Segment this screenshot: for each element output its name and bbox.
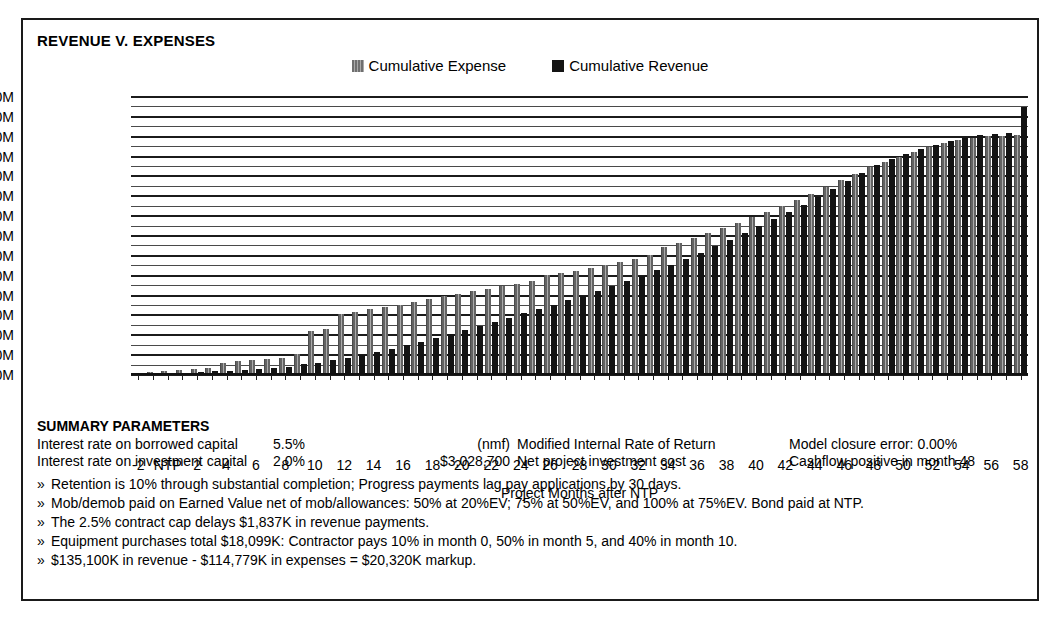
bar-cumulative-expense [764,212,770,375]
bar-group [396,305,411,375]
summary-note-text: Retention is 10% through substantial com… [51,475,1027,494]
bar-group [322,329,337,375]
bar-cumulative-revenue [683,259,689,375]
bar-cumulative-expense [441,296,447,375]
x-axis-tick [212,375,213,380]
x-axis-tick [330,375,331,380]
summary-note-text: $135,100K in revenue - $114,779K in expe… [51,551,1027,570]
y-axis-tick-label: $60.0M [0,248,14,264]
gridline-major [131,96,1028,98]
x-axis-tick [432,375,433,380]
bar-group [602,265,617,375]
bar-cumulative-revenue [1021,107,1027,375]
bar-cumulative-expense [867,167,873,375]
x-axis-tick [344,375,345,380]
bar-cumulative-expense [720,228,726,375]
summary-note-text: Mob/demob paid on Earned Value net of mo… [51,494,1027,513]
bar-cumulative-revenue [462,330,468,375]
summary-heading: SUMMARY PARAMETERS [37,418,1027,434]
bar-group [425,299,440,375]
bar-cumulative-expense [485,289,491,375]
bar-group [293,354,308,375]
summary-parameter-row: Interest rate on borrowed capital5.5%(nm… [37,436,1027,453]
x-axis-tick [712,375,713,380]
bar-cumulative-revenue [962,138,968,375]
bar-cumulative-expense [999,136,1005,375]
legend-label-expense: Cumulative Expense [369,58,507,73]
summary-note-row: »The 2.5% contract cap delays $1,837K in… [37,513,1027,532]
bar-group [734,223,749,375]
bar-cumulative-revenue [477,326,483,375]
bar-cumulative-expense [647,255,653,375]
x-axis-tick [918,375,919,380]
x-axis-tick [815,375,816,380]
x-axis-tick [682,375,683,380]
bar-group [352,312,367,375]
x-axis-tick [771,375,772,380]
summary-param-value: 5.5% [273,436,393,453]
bar-cumulative-revenue [433,338,439,375]
x-axis-tick [535,375,536,380]
bar-cumulative-expense [676,243,682,375]
bar-group [557,273,572,375]
bar-cumulative-revenue [845,181,851,375]
x-axis-tick [197,375,198,380]
bar-cumulative-expense [794,200,800,375]
x-axis-line [131,373,1028,375]
bar-group [499,286,514,375]
bar-cumulative-expense [544,275,550,375]
bar-cumulative-expense [338,314,344,375]
x-axis-tick [403,375,404,380]
screenshot-root: REVENUE V. EXPENSES Cumulative Expense C… [0,0,1059,620]
bar-group [954,138,969,375]
bar-group [543,275,558,375]
bar-cumulative-revenue [521,313,527,375]
bar-cumulative-expense [588,268,594,375]
bar-cumulative-revenue [771,219,777,375]
x-axis-tick [491,375,492,380]
bar-group [852,173,867,375]
bullet-icon: » [37,513,51,532]
x-axis-tick [756,375,757,380]
summary-param-label: Interest rate on investment capital [37,453,273,470]
legend-item-cumulative-expense: Cumulative Expense [352,58,507,73]
bar-cumulative-revenue [389,349,395,375]
y-axis-tick-label: $70.0M [0,228,14,244]
y-axis-tick-label: $110.0M [0,149,14,165]
y-axis-tick-label: $100.0M [0,168,14,184]
bar-cumulative-expense [558,273,564,375]
bar-cumulative-expense [455,294,461,375]
bar-cumulative-expense [911,152,917,375]
summary-param-value: 2.0% [273,453,393,470]
bar-cumulative-revenue [948,141,954,375]
summary-notes: »Retention is 10% through substantial co… [37,475,1027,570]
bar-cumulative-expense [661,247,667,375]
bar-cumulative-revenue [639,276,645,375]
summary-param-description: Net project investment cost [517,453,789,470]
bar-cumulative-expense [602,265,608,375]
y-axis-tick-label: $20.0M [0,327,14,343]
summary-param-label: Interest rate on borrowed capital [37,436,273,453]
summary-param-amount: $3,028,700 [393,453,517,470]
x-axis-tick [359,375,360,380]
bar-group [999,133,1014,375]
bar-group [484,289,499,375]
x-axis-tick [624,375,625,380]
page-title: REVENUE V. EXPENSES [37,32,215,49]
bar-cumulative-revenue [492,322,498,375]
y-axis-tick-label: $120.0M [0,129,14,145]
x-axis-tick [315,375,316,380]
bar-cumulative-expense [308,331,314,375]
x-axis-tick [565,375,566,380]
gridline-minor [131,146,1028,147]
bullet-icon: » [37,551,51,570]
bar-cumulative-revenue [565,300,571,375]
y-axis-tick-label: $80.0M [0,208,14,224]
x-axis-tick [932,375,933,380]
x-axis-tick [388,375,389,380]
bar-cumulative-revenue [580,296,586,375]
bar-group [881,159,896,375]
x-axis-tick [506,375,507,380]
x-axis-tick [829,375,830,380]
bullet-icon: » [37,475,51,494]
